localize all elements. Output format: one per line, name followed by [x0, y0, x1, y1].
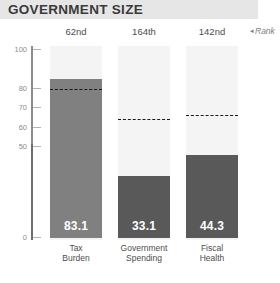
y-tick-80: [33, 88, 41, 89]
bar-value-tax-burden: 83.1: [50, 219, 102, 233]
category-label-fiscal-health: Fiscal Health: [177, 243, 247, 263]
y-axis-label-60: 60: [0, 123, 27, 132]
average-line-government-spending: [118, 119, 170, 120]
rank-row: 62nd 164th 142nd ◂Rank: [0, 26, 280, 40]
rank-label-fiscal-health: 142nd: [182, 26, 242, 37]
y-tick-70: [33, 107, 41, 108]
y-axis-label-70: 70: [0, 103, 27, 112]
bar-government-spending[interactable]: 33.1: [118, 176, 170, 238]
category-label-tax-burden-line1: Tax: [41, 243, 111, 253]
y-tick-60: [33, 127, 41, 128]
y-axis-line-lower: [31, 144, 33, 240]
rank-legend-label: Rank: [255, 26, 275, 36]
average-line-fiscal-health: [186, 115, 238, 116]
y-tick-100: [33, 49, 41, 50]
category-label-tax-burden-line2: Burden: [41, 253, 111, 263]
plot-area: 100 80 70 60 50 0 83.1 33.1 44.3: [0, 44, 280, 240]
category-labels: Tax Burden Government Spending Fiscal He…: [0, 243, 280, 267]
y-tick-50: [33, 146, 41, 147]
category-label-government-spending: Government Spending: [109, 243, 179, 263]
category-label-government-spending-line2: Spending: [109, 253, 179, 263]
category-label-tax-burden: Tax Burden: [41, 243, 111, 263]
rank-legend: ◂Rank: [250, 26, 275, 36]
government-size-chart-panel: GOVERNMENT SIZE 62nd 164th 142nd ◂Rank 1…: [0, 0, 280, 283]
y-axis-label-0: 0: [0, 233, 27, 242]
bar-value-government-spending: 33.1: [118, 219, 170, 233]
y-axis-label-50: 50: [0, 142, 27, 151]
bar-tax-burden[interactable]: 83.1: [50, 79, 102, 238]
category-label-fiscal-health-line2: Health: [177, 253, 247, 263]
y-tick-0: [33, 237, 41, 238]
left-arrow-icon: ◂: [250, 27, 254, 34]
y-axis-label-100: 100: [0, 45, 27, 54]
category-label-government-spending-line1: Government: [109, 243, 179, 253]
bar-fiscal-health[interactable]: 44.3: [186, 155, 238, 238]
average-line-tax-burden: [50, 89, 102, 90]
category-label-fiscal-health-line1: Fiscal: [177, 243, 247, 253]
page-title: GOVERNMENT SIZE: [8, 2, 143, 17]
rank-label-tax-burden: 62nd: [46, 26, 106, 37]
bar-value-fiscal-health: 44.3: [186, 219, 238, 233]
y-axis-label-80: 80: [0, 84, 27, 93]
rank-label-government-spending: 164th: [114, 26, 174, 37]
